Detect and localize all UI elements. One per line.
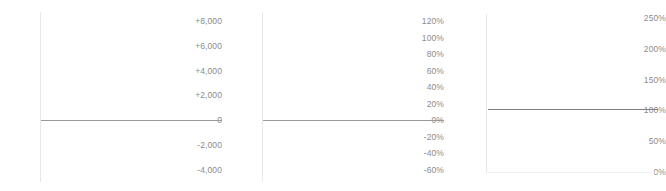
y-axis-line-2 bbox=[262, 12, 263, 182]
gridline-0-percent bbox=[488, 172, 658, 173]
y-tick-label: +4,000 bbox=[188, 66, 222, 75]
y-tick-label: -60% bbox=[410, 165, 444, 174]
chart-absolute-change: +8,000 +6,000 +4,000 +2,000 0 -2,000 -4,… bbox=[0, 0, 222, 191]
y-tick-label: -20% bbox=[410, 132, 444, 141]
chart-panel-row: +8,000 +6,000 +4,000 +2,000 0 -2,000 -4,… bbox=[0, 0, 666, 191]
y-tick-label: 150% bbox=[630, 75, 666, 84]
chart-percent-change: 120% 100% 80% 60% 40% 20% 0% -20% -40% -… bbox=[222, 0, 444, 191]
y-tick-label: -4,000 bbox=[188, 165, 222, 174]
series-line bbox=[488, 109, 658, 110]
series-line bbox=[263, 120, 444, 121]
y-tick-label: -40% bbox=[410, 149, 444, 158]
y-tick-label: +2,000 bbox=[188, 91, 222, 100]
y-axis-line-1 bbox=[40, 12, 41, 182]
y-tick-label: 100% bbox=[630, 106, 666, 115]
y-tick-label: 250% bbox=[630, 14, 666, 23]
y-tick-label: 80% bbox=[410, 50, 444, 59]
y-tick-label: 20% bbox=[410, 99, 444, 108]
y-tick-label: 60% bbox=[410, 66, 444, 75]
y-tick-label: 40% bbox=[410, 83, 444, 92]
y-tick-label: -2,000 bbox=[188, 141, 222, 150]
series-line bbox=[41, 120, 222, 121]
y-tick-label: 120% bbox=[410, 17, 444, 26]
chart-index-level: 250% 200% 150% 100% 50% 0% bbox=[444, 0, 666, 191]
y-axis-line-3 bbox=[486, 14, 487, 173]
y-tick-label: +6,000 bbox=[188, 41, 222, 50]
y-tick-label: 100% bbox=[410, 33, 444, 42]
y-tick-label: +8,000 bbox=[188, 17, 222, 26]
y-tick-label: 200% bbox=[630, 44, 666, 53]
y-tick-label: 50% bbox=[630, 137, 666, 146]
